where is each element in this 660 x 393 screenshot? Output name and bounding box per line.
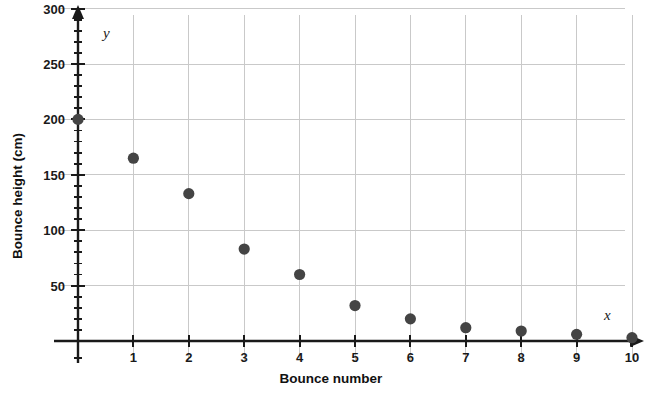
- y-axis-arrowhead: [72, 5, 84, 19]
- y-tick-label: 100: [43, 223, 65, 238]
- data-point: [294, 269, 305, 280]
- data-point: [571, 329, 582, 340]
- x-axis-tick-labels: 12345678910: [130, 350, 639, 365]
- data-point: [516, 325, 527, 336]
- horizontal-gridlines: [60, 9, 625, 286]
- vertical-gridlines: [133, 15, 632, 360]
- data-point: [72, 114, 83, 125]
- x-tick-label: 2: [185, 350, 192, 365]
- x-tick-label: 8: [518, 350, 525, 365]
- y-tick-label: 200: [43, 112, 65, 127]
- data-point: [239, 243, 250, 254]
- x-tick-label: 7: [462, 350, 469, 365]
- x-tick-label: 9: [573, 350, 580, 365]
- data-point: [183, 188, 194, 199]
- data-point: [460, 322, 471, 333]
- x-tick-label: 1: [130, 350, 137, 365]
- y-variable-label: y: [101, 25, 110, 41]
- y-axis-tick-labels: 50100150200250300: [43, 2, 65, 294]
- data-point: [128, 153, 139, 164]
- x-tick-label: 6: [407, 350, 414, 365]
- chart-canvas: 50100150200250300 12345678910 y x Bounce…: [0, 0, 660, 393]
- x-tick-label: 5: [351, 350, 358, 365]
- x-axis-title: Bounce number: [280, 371, 384, 386]
- x-variable-label: x: [603, 307, 611, 323]
- y-axis-title: Bounce height (cm): [10, 133, 25, 259]
- y-tick-label: 150: [43, 168, 65, 183]
- data-point: [405, 313, 416, 324]
- y-tick-label: 300: [43, 2, 65, 17]
- scatter-chart: 50100150200250300 12345678910 y x Bounce…: [0, 0, 660, 393]
- x-tick-label: 4: [296, 350, 304, 365]
- x-tick-label: 3: [241, 350, 248, 365]
- x-tick-label: 10: [625, 350, 639, 365]
- y-tick-label: 50: [51, 279, 65, 294]
- data-point: [626, 332, 637, 343]
- data-point: [349, 300, 360, 311]
- y-tick-label: 250: [43, 57, 65, 72]
